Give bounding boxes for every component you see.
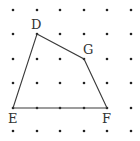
grid-dot [106, 130, 109, 133]
grid-dot [59, 58, 62, 61]
vertex-label-f: F [102, 111, 111, 126]
grid-dot [12, 9, 15, 12]
dot-grid [12, 9, 133, 133]
vertex-label-e: E [8, 111, 18, 126]
grid-dot [12, 130, 15, 133]
quadrilateral-diagram: DGFE [0, 0, 140, 141]
grid-dot [59, 82, 62, 85]
grid-dot [12, 58, 15, 61]
grid-dot [36, 130, 39, 133]
grid-dot [12, 33, 15, 36]
grid-dot [106, 9, 109, 12]
grid-dot [106, 82, 109, 85]
grid-dot [130, 33, 133, 36]
grid-dot [59, 33, 62, 36]
grid-dot [130, 58, 133, 61]
grid-dot [12, 82, 15, 85]
grid-dot [130, 107, 133, 110]
grid-dot [83, 33, 86, 36]
vertex-label-g: G [83, 42, 93, 57]
grid-dot [36, 82, 39, 85]
grid-dot [106, 58, 109, 61]
grid-dot [83, 82, 86, 85]
grid-dot [36, 58, 39, 61]
grid-dot [83, 130, 86, 133]
grid-dot [106, 33, 109, 36]
grid-dot [83, 9, 86, 12]
grid-dot [59, 130, 62, 133]
grid-dot [36, 9, 39, 12]
grid-dot [130, 9, 133, 12]
grid-dot [130, 82, 133, 85]
vertex-label-d: D [31, 17, 41, 32]
grid-dot [130, 130, 133, 133]
grid-dot [59, 9, 62, 12]
